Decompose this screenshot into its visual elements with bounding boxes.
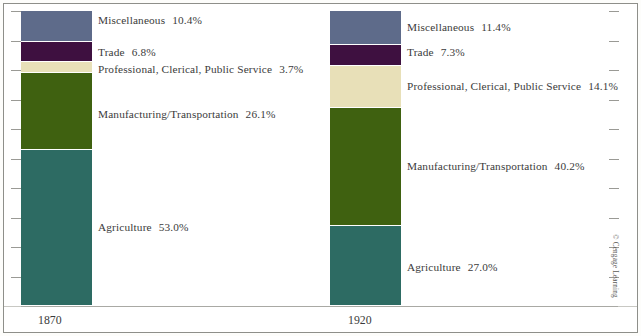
bar-segment-agriculture[interactable] [21,150,92,306]
axis-tick-left [11,277,21,278]
bar-segment-miscellaneous[interactable] [21,11,92,42]
axis-tick-right [609,41,619,42]
axis-tick-right [609,218,619,219]
segment-label-agriculture: Agriculture27.0% [407,261,498,273]
bar-segment-trade[interactable] [21,42,92,62]
segment-label-professional: Professional, Clerical, Public Service3.… [98,63,303,75]
axis-tick-left [11,188,21,189]
segment-label-percent: 10.4% [172,14,202,26]
segment-label-percent: 3.7% [279,63,303,75]
segment-label-manufacturing: Manufacturing/Transportation26.1% [98,108,276,120]
x-axis-label-1870: 1870 [38,313,62,328]
segment-label-text: Trade [98,46,125,58]
segment-label-percent: 14.1% [588,80,618,92]
axis-tick-right [609,159,619,160]
axis-tick-right [609,129,619,130]
segment-label-text: Manufacturing/Transportation [98,108,239,120]
bar-segment-agriculture[interactable] [330,226,401,306]
segment-label-miscellaneous: Miscellaneous11.4% [407,21,511,33]
figure-container: Miscellaneous10.4% Trade6.8% Professiona… [0,0,641,336]
copyright-credit: © Cengage Learning [611,234,619,330]
stacked-bar-1870[interactable] [21,11,92,306]
axis-tick-left [11,247,21,248]
segment-label-text: Professional, Clerical, Public Service [98,63,272,75]
bar-segment-professional[interactable] [21,62,92,73]
plot-area: Miscellaneous10.4% Trade6.8% Professiona… [0,0,641,336]
segment-label-percent: 40.2% [555,160,585,172]
segment-label-manufacturing: Manufacturing/Transportation40.2% [407,160,585,172]
axis-tick-right [609,100,619,101]
segment-label-text: Miscellaneous [98,14,165,26]
x-axis-label-1920: 1920 [348,313,372,328]
segment-label-percent: 26.1% [246,108,276,120]
bar-segment-manufacturing[interactable] [21,73,92,150]
bar-segment-miscellaneous[interactable] [330,11,401,45]
segment-label-miscellaneous: Miscellaneous10.4% [98,14,202,26]
segment-label-agriculture: Agriculture53.0% [98,221,189,233]
segment-label-text: Miscellaneous [407,21,474,33]
segment-label-percent: 6.8% [132,46,156,58]
axis-tick-right [609,70,619,71]
bar-segment-manufacturing[interactable] [330,108,401,227]
segment-label-percent: 7.3% [441,46,465,58]
axis-tick-left [11,100,21,101]
segment-label-percent: 53.0% [159,221,189,233]
axis-tick-left [11,159,21,160]
bar-segment-professional[interactable] [330,66,401,108]
segment-label-text: Manufacturing/Transportation [407,160,548,172]
axis-tick-left [11,70,21,71]
segment-label-professional: Professional, Clerical, Public Service14… [407,80,618,92]
axis-baseline [21,306,618,307]
axis-tick-left [11,129,21,130]
segment-label-trade: Trade6.8% [98,46,156,58]
segment-label-trade: Trade7.3% [407,46,465,58]
stacked-bar-1920[interactable] [330,11,401,306]
segment-label-percent: 27.0% [468,261,498,273]
axis-tick-left [11,11,21,12]
axis-tick-left [11,218,21,219]
segment-label-text: Professional, Clerical, Public Service [407,80,581,92]
segment-label-text: Trade [407,46,434,58]
axis-tick-left [11,41,21,42]
bar-segment-trade[interactable] [330,45,401,67]
segment-label-text: Agriculture [98,221,152,233]
axis-tick-right [609,11,619,12]
axis-tick-right [609,188,619,189]
segment-label-text: Agriculture [407,261,461,273]
segment-label-percent: 11.4% [481,21,511,33]
